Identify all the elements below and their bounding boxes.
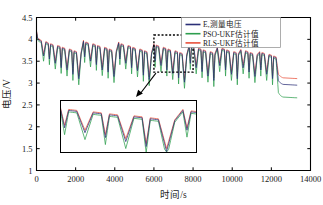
x-tick-label: 4000 [106,174,123,184]
x-tick-label: 6000 [145,174,162,184]
chart-legend: E,测量电压PSO-UKF估计值RLS-UKF估计值 [182,18,281,48]
legend-label-3: RLS-UKF估计值 [203,38,259,48]
y-tick-label: 1.5 [22,144,33,154]
legend-label-2: PSO-UKF估计值 [203,29,259,39]
x-tick-label: 12000 [261,174,282,184]
y-tick-label: 3.5 [22,56,33,66]
inset-panel [58,101,197,153]
y-tick-label: 2 [28,122,32,132]
y-tick-label: 1 [28,166,32,176]
voltage-line-chart: 02000400060008000100001200014000 11.522.… [0,0,323,205]
x-tick-label: 14000 [300,174,321,184]
y-tick-label: 4 [28,34,33,44]
y-axis-title: 电压/V [1,79,12,109]
y-tick-label: 4.5 [22,13,33,23]
legend-label-1: E,测量电压 [203,19,242,29]
y-tick-label: 2.5 [22,100,33,110]
y-tick-label: 3 [28,78,32,88]
inset-pointer-arrow [136,73,156,97]
x-tick-label: 2000 [67,174,84,184]
x-axis-title: 时间/s [160,189,187,200]
chart-figure: 02000400060008000100001200014000 11.522.… [0,0,323,205]
x-tick-label: 8000 [185,174,202,184]
y-tick-labels: 11.522.533.544.5 [22,13,33,176]
x-tick-label: 0 [34,174,38,184]
x-tick-label: 10000 [222,174,243,184]
pointer-line [140,73,156,94]
x-tick-labels: 02000400060008000100001200014000 [34,174,321,184]
